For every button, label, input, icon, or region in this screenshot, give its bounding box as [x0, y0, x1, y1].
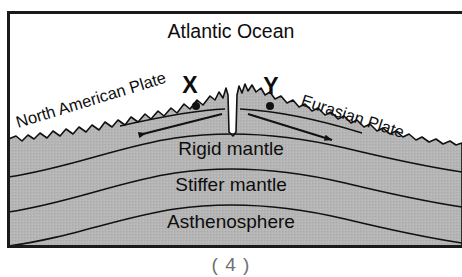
rigid-mantle-label: Rigid mantle — [178, 138, 284, 159]
diagram-canvas: X Y Atlantic Ocean North American Plate … — [0, 0, 462, 277]
seafloor-spreading-diagram: X Y Atlantic Ocean North American Plate … — [0, 0, 462, 277]
asthenosphere-label: Asthenosphere — [167, 211, 295, 232]
point-y-dot — [266, 102, 274, 110]
figure-caption: ( 4 ) — [0, 252, 462, 277]
point-y-label: Y — [263, 73, 278, 99]
point-x-dot — [192, 102, 200, 110]
page-title: Atlantic Ocean — [168, 20, 295, 42]
stiffer-mantle-label: Stiffer mantle — [175, 174, 287, 195]
point-x-label: X — [182, 72, 198, 98]
